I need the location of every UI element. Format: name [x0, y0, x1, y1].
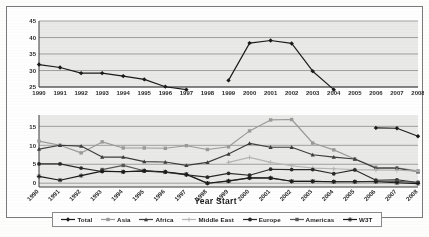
triangle-marker-icon	[139, 216, 153, 223]
x-axis-tick-label: 1995	[138, 90, 152, 96]
x-axis-tick-label: 1997	[180, 90, 194, 96]
square-marker-icon	[101, 216, 115, 223]
legend-label: Total	[77, 216, 92, 223]
chart-legend: TotalAsiaAfricaMiddle EastEuropeAmericas…	[52, 212, 382, 227]
x-axis-tick-label: 1998	[201, 90, 215, 96]
x-axis-tick-label: 1999	[222, 90, 236, 96]
x-axis-tick-label: 2007	[390, 90, 404, 96]
x-axis-tick-label: 2006	[369, 90, 383, 96]
legend-label: Middle East	[198, 216, 233, 223]
legend-label: Africa	[155, 216, 173, 223]
chart-canvas: 2530354045199019911992199319941995199619…	[7, 7, 424, 219]
x-axis-title: Year Start	[7, 196, 424, 206]
legend-item-africa[interactable]: Africa	[139, 216, 173, 223]
chart-frame: 2530354045199019911992199319941995199619…	[6, 6, 423, 218]
legend-label: Americas	[306, 216, 335, 223]
y-axis-tick-label: 0	[33, 180, 37, 186]
y-axis-tick-label: 10	[29, 143, 36, 149]
x-axis-tick-label: 2008	[411, 90, 424, 96]
legend-item-americas[interactable]: Americas	[290, 216, 335, 223]
x-axis-tick-label: 1991	[53, 90, 67, 96]
cross-marker-icon	[182, 216, 196, 223]
x-axis-tick-label: 2005	[348, 90, 362, 96]
x-axis-tick-label: 2001	[264, 90, 278, 96]
legend-item-asia[interactable]: Asia	[101, 216, 130, 223]
legend-item-europe[interactable]: Europe	[243, 216, 281, 223]
x-axis-tick-label: 1990	[32, 90, 46, 96]
circle-marker-icon	[243, 216, 257, 223]
diamond-marker-icon	[61, 216, 75, 223]
x-axis-tick-label: 2004	[327, 90, 341, 96]
square-marker-icon	[290, 216, 304, 223]
x-axis-tick-label: 1993	[95, 90, 109, 96]
x-axis-tick-label: 1996	[159, 90, 173, 96]
x-axis-tick-label: 1992	[74, 90, 88, 96]
y-axis-tick-label: 40	[29, 35, 36, 41]
legend-item-middle-east[interactable]: Middle East	[182, 216, 233, 223]
legend-label: Asia	[117, 216, 130, 223]
legend-label: Europe	[259, 216, 281, 223]
legend-item-w3t[interactable]: W3T	[343, 216, 372, 223]
legend-label: W3T	[359, 216, 372, 223]
x-axis-tick-label: 1994	[117, 90, 131, 96]
star-marker-icon	[343, 216, 357, 223]
x-axis-tick-label: 2000	[243, 90, 257, 96]
chart-page: 2530354045199019911992199319941995199619…	[0, 0, 429, 237]
y-axis-tick-label: 45	[29, 18, 36, 24]
y-axis-tick-label: 35	[29, 51, 36, 57]
y-axis-tick-label: 5	[33, 161, 37, 167]
x-axis-tick-label: 2003	[306, 90, 320, 96]
y-axis-tick-label: 30	[29, 68, 36, 74]
legend-item-total[interactable]: Total	[61, 216, 92, 223]
x-axis-tick-label: 2002	[285, 90, 299, 96]
y-axis-tick-label: 15	[29, 124, 36, 130]
